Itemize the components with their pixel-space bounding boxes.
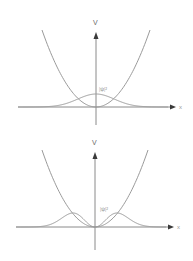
v-axis-label: V — [93, 19, 98, 26]
v-axis-arrow-icon — [94, 32, 99, 39]
v-axis-arrow-icon — [93, 152, 98, 159]
x-axis-label: x — [179, 104, 182, 110]
psi-squared-label: |ψ|² — [100, 206, 108, 212]
probability-density-curve — [16, 213, 166, 227]
panel-first-excited-state: x V |ψ|² — [16, 139, 180, 250]
panel-ground-state: x V |ψ|² — [18, 19, 182, 125]
v-axis-label: V — [92, 139, 97, 146]
x-axis-arrow-icon — [170, 105, 176, 110]
probability-density-curve — [18, 94, 168, 107]
x-axis-arrow-icon — [168, 225, 174, 230]
x-axis-label: x — [177, 224, 180, 230]
figure: x V |ψ|² x V |ψ|² — [0, 0, 193, 261]
psi-squared-label: |ψ|² — [99, 86, 107, 92]
